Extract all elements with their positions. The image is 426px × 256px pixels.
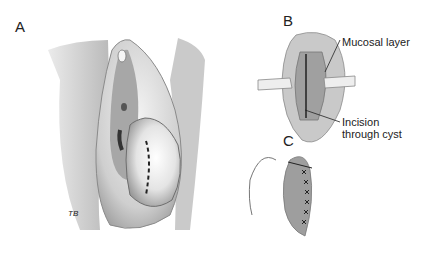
callout-mucosal-layer: Mucosal layer (342, 36, 410, 48)
panel-b-illustration (258, 32, 355, 142)
panel-label-c: C (283, 132, 294, 149)
panel-c-illustration (249, 157, 312, 236)
callout-incision: Incision (342, 116, 379, 128)
panel-label-a: A (15, 18, 25, 35)
panel-label-b: B (283, 12, 293, 29)
artist-signature: TB (68, 208, 78, 220)
callout-through-cyst: through cyst (342, 128, 402, 140)
panel-a-illustration (48, 38, 205, 230)
